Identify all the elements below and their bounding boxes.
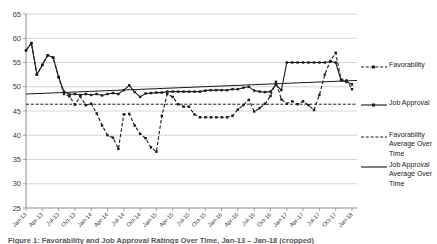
x-axis-label: Jul-15 [175,211,190,226]
data-point [95,93,97,95]
data-point [150,146,152,148]
data-point [280,98,282,100]
data-point [296,61,298,63]
data-point [324,61,326,63]
data-point [296,103,298,105]
data-point [335,61,337,63]
x-axis-label: Jan-14 [76,211,93,228]
x-axis-label: Apr-16 [223,211,240,228]
data-point [210,116,212,118]
data-point [139,96,141,98]
x-axis-label: Jul-13 [45,211,60,226]
data-point [307,104,309,106]
legend-item-favorability: Favorability [361,60,425,71]
data-point [106,134,108,136]
data-point [166,90,168,92]
x-axis-label: Apr-17 [288,211,305,228]
data-point [220,116,222,118]
data-point [85,104,87,106]
data-point [133,91,135,93]
data-point [345,81,347,83]
data-point [313,109,315,111]
data-point [264,91,266,93]
data-point [30,42,32,44]
data-point [248,99,250,101]
data-point [112,92,114,94]
x-axis-label: Oct-13 [60,211,77,228]
data-point [172,96,174,98]
data-point [307,61,309,63]
caption-cropped: Figure 1: Favorability and Job Approval … [8,236,433,244]
data-point [63,90,65,92]
data-point [215,116,217,118]
y-axis-label: 65 [13,10,21,19]
data-point [101,94,103,96]
data-point [253,110,255,112]
data-point [188,90,190,92]
legend-sample-line [361,63,387,71]
data-point [57,76,59,78]
x-axis-label: Jan-18 [337,211,354,228]
data-point [340,79,342,81]
x-axis-label: Apr-13 [27,211,44,228]
data-point [269,95,271,97]
x-axis-label: Oct-17 [321,211,338,228]
chart-container: 253035404550556065Jan-13Apr-13Jul-13Oct-… [0,0,437,244]
data-point [172,90,174,92]
data-point [193,90,195,92]
data-point [291,100,293,102]
data-point [313,61,315,63]
data-point [226,89,228,91]
y-axis-label: 40 [13,131,21,140]
data-point [351,88,353,90]
x-axis-label: Oct-14 [125,211,142,228]
data-point [117,93,119,95]
data-point [166,93,168,95]
data-point [161,91,163,93]
data-point [74,103,76,105]
legend-label: Job Approval Average Over Time [387,160,437,188]
y-axis-label: 25 [13,204,21,213]
chart-legend: FavorabilityJob ApprovalFavorability Ave… [361,0,437,210]
data-point [90,94,92,96]
data-point [231,88,233,90]
data-point [128,113,130,115]
data-point [253,89,255,91]
data-point [318,61,320,63]
data-point [280,89,282,91]
data-point [188,105,190,107]
data-point [237,88,239,90]
data-point [302,61,304,63]
data-point [90,103,92,105]
data-point [351,83,353,85]
data-point [36,73,38,75]
data-point [210,89,212,91]
data-point [264,103,266,105]
data-point [139,133,141,135]
data-point [248,86,250,88]
data-point [47,54,49,56]
x-axis-label: Apr-14 [93,211,110,228]
data-point [106,93,108,95]
data-point [79,94,81,96]
legend-sample-line [361,163,387,171]
data-point [128,84,130,86]
data-point [231,115,233,117]
data-point [286,103,288,105]
data-point [269,90,271,92]
data-point [204,89,206,91]
x-axis-label: Jul-16 [240,211,255,226]
data-point [177,103,179,105]
data-point [74,93,76,95]
legend-label: Favorability [387,60,425,69]
data-point [220,89,222,91]
series-line-job-approval [26,43,352,97]
data-point [95,112,97,114]
data-point [226,116,228,118]
data-point [242,87,244,89]
data-point [112,136,114,138]
data-point [324,73,326,75]
data-point [275,84,277,86]
data-point [144,92,146,94]
data-point [155,151,157,153]
